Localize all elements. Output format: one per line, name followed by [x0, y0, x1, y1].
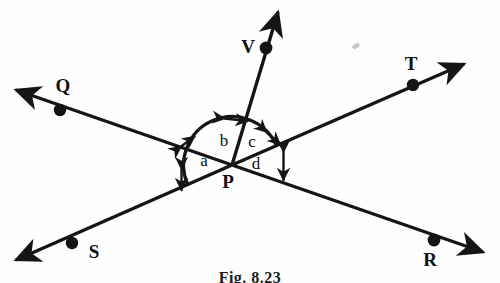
ray-pr: [232, 165, 483, 252]
point-r-dot: [428, 234, 441, 247]
point-v-dot: [260, 42, 273, 55]
ray-ps: [16, 165, 232, 260]
point-label-p: P: [222, 171, 234, 192]
figure-caption: Fig. 8.23: [0, 269, 500, 283]
point-s-dot: [66, 237, 78, 249]
figure-canvas: Q T V S R P a b c d: [0, 0, 500, 283]
point-label-group: Q T V S R P: [56, 36, 438, 270]
point-label-q: Q: [56, 75, 71, 96]
geometry-figure: Q T V S R P a b c d Fig. 8.23: [0, 0, 500, 283]
angle-label-a: a: [200, 151, 208, 170]
angle-label-d: d: [252, 154, 261, 173]
ray-pt: [232, 64, 464, 165]
scan-artifact: [351, 42, 360, 50]
point-q-dot: [54, 104, 66, 116]
angle-label-b: b: [220, 131, 229, 150]
point-label-r: R: [423, 249, 437, 270]
angle-label-c: c: [248, 132, 256, 151]
point-t-dot: [407, 79, 419, 91]
point-label-s: S: [89, 241, 100, 262]
point-label-v: V: [241, 36, 255, 57]
point-label-t: T: [405, 53, 418, 74]
